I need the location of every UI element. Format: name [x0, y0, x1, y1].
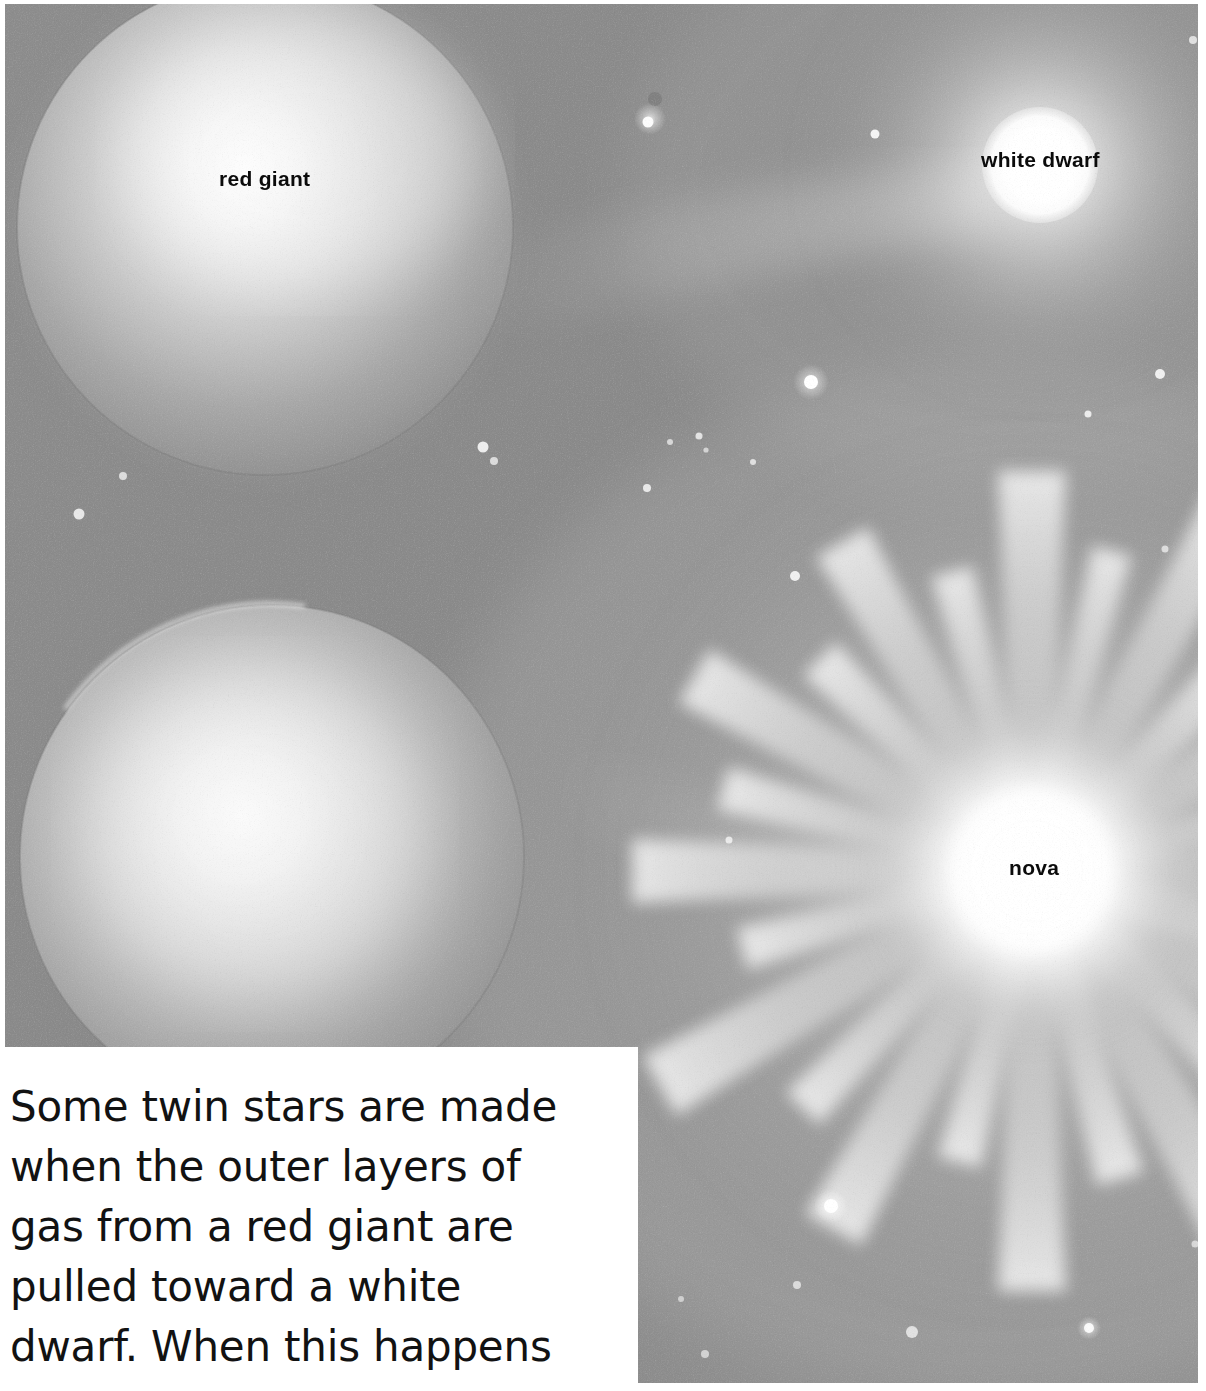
label-red-giant: red giant	[219, 168, 310, 189]
caption-line: pulled toward a white	[10, 1257, 620, 1317]
caption-text: Some twin stars are made when the outer …	[10, 1077, 620, 1377]
figure-page: red giant white dwarf nova Some twin sta…	[0, 0, 1206, 1391]
caption-panel: Some twin stars are made when the outer …	[0, 1047, 638, 1391]
label-white-dwarf: white dwarf	[981, 149, 1100, 170]
caption-line: gas from a red giant are	[10, 1197, 620, 1257]
caption-line: dwarf. When this happens	[10, 1317, 620, 1377]
label-nova: nova	[1009, 857, 1059, 878]
caption-line: when the outer layers of	[10, 1137, 620, 1197]
caption-line: Some twin stars are made	[10, 1077, 620, 1137]
red-giant-lower	[20, 604, 524, 1109]
